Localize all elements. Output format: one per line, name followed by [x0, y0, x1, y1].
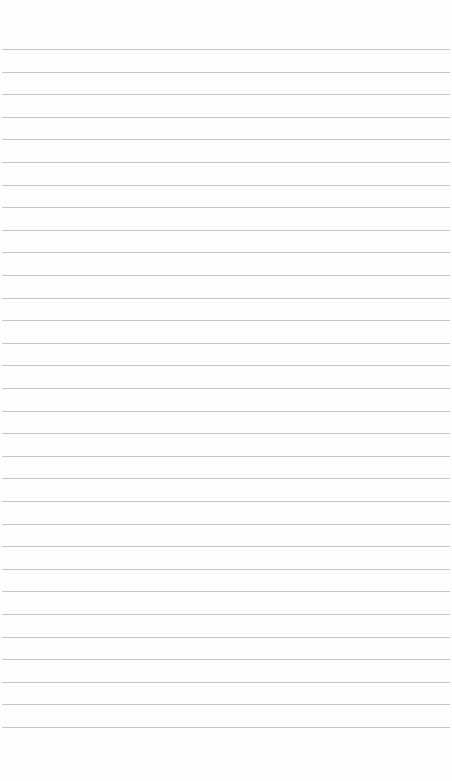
ruled-line: [2, 298, 450, 299]
ruled-line: [2, 72, 450, 73]
ruled-line: [2, 478, 450, 479]
ruled-line: [2, 546, 450, 547]
ruled-line: [2, 388, 450, 389]
ruled-line: [2, 637, 450, 638]
ruled-line: [2, 275, 450, 276]
ruled-line: [2, 433, 450, 434]
ruled-line: [2, 185, 450, 186]
ruled-line: [2, 139, 450, 140]
ruled-line: [2, 704, 450, 705]
ruled-line: [2, 727, 450, 728]
ruled-line: [2, 162, 450, 163]
ruled-line: [2, 94, 450, 95]
ruled-line: [2, 252, 450, 253]
ruled-line: [2, 591, 450, 592]
ruled-line: [2, 207, 450, 208]
ruled-line: [2, 614, 450, 615]
ruled-line: [2, 524, 450, 525]
ruled-line: [2, 230, 450, 231]
ruled-line: [2, 117, 450, 118]
ruled-line: [2, 343, 450, 344]
ruled-line: [2, 365, 450, 366]
ruled-line: [2, 682, 450, 683]
lined-paper-page: [0, 0, 452, 781]
ruled-line: [2, 569, 450, 570]
ruled-line: [2, 320, 450, 321]
ruled-line: [2, 501, 450, 502]
ruled-line: [2, 456, 450, 457]
ruled-line: [2, 49, 450, 50]
ruled-line: [2, 411, 450, 412]
ruled-line: [2, 659, 450, 660]
